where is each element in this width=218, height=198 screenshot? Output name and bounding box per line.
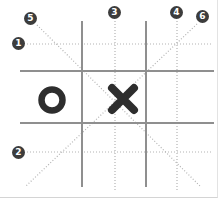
line-marker-4-label: 4 — [173, 8, 179, 17]
line-marker-2-label: 2 — [15, 148, 21, 157]
line-marker-5: 5 — [24, 12, 37, 25]
line-marker-3-label: 3 — [111, 8, 117, 17]
line-marker-6-label: 6 — [199, 12, 205, 21]
line-marker-6: 6 — [196, 10, 209, 23]
line-marker-5-label: 5 — [27, 14, 33, 23]
line-marker-1: 1 — [12, 37, 25, 50]
line-marker-4: 4 — [170, 6, 183, 19]
board-grid[interactable] — [0, 0, 218, 198]
line-marker-2: 2 — [12, 146, 25, 159]
tic-tac-toe-diagram: 1 2 3 4 5 6 — [0, 0, 218, 198]
line-marker-1-label: 1 — [15, 39, 21, 48]
piece-o — [42, 90, 63, 111]
line-marker-3: 3 — [108, 6, 121, 19]
